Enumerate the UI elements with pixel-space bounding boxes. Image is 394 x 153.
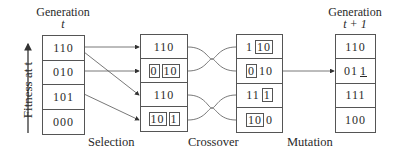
gene-segment: 10 [258,65,274,77]
selection-column: 110010110101 [140,34,188,132]
crossover-label: Crossover [188,135,239,150]
chromosome-row: 111 [237,84,282,108]
swapped-gene-segment: 10 [162,64,180,78]
gene-segment: 110 [153,89,176,101]
gene-segment: 110 [153,41,176,53]
chromosome-row: 010 [237,59,282,83]
chromosome-row: 010 [43,61,84,86]
gene-segment: 101 [52,91,75,103]
chromosome-row: 101 [141,107,187,131]
swapped-gene-segment: 10 [149,112,167,126]
chromosome-row: 000 [43,110,84,135]
selection-label: Selection [88,135,135,150]
chromosome-row: 110 [141,83,187,107]
gene-segment: 110 [52,42,75,54]
generation-t-header: Generation t [30,6,96,30]
gene-segment: 01 [343,65,359,77]
gene-segment: 010 [52,66,75,78]
chromosome-row: 110 [141,35,187,59]
crossover-column: 110010111100 [236,34,283,133]
swapped-gene-segment: 0 [149,64,160,78]
mutated-gene: 1 [359,65,368,77]
gene-segment: 111 [344,89,366,101]
chromosome-row: 111 [336,84,375,108]
chromosome-row: 011 [336,59,375,83]
generation-t-sub: t [30,18,96,30]
gene-segment: 100 [344,114,367,126]
gene-segment: 0 [265,114,274,126]
gene-segment: 1 [245,41,254,53]
chromosome-row: 100 [336,108,375,132]
gene-segment: 000 [52,116,75,128]
gene-segment: 11 [245,89,261,101]
generation-t1-header: Generation t + 1 [322,6,388,30]
swapped-gene-segment: 10 [246,113,264,127]
swapped-gene-segment: 1 [169,112,180,126]
chromosome-row: 010 [141,59,187,83]
generation-t1-sub: t + 1 [322,18,388,30]
chromosome-row: 100 [237,108,282,132]
chromosome-row: 101 [43,85,84,110]
swapped-gene-segment: 0 [246,64,257,78]
chromosome-row: 110 [336,35,375,59]
fitness-axis-label: Fitness at t [20,50,36,130]
mutation-label: Mutation [287,135,333,150]
generation-t-column: 110010101000 [42,35,85,135]
gene-segment: 110 [344,41,367,53]
swapped-gene-segment: 10 [255,40,273,54]
swapped-gene-segment: 1 [262,88,273,102]
generation-t1-column: 110011111100 [335,34,376,133]
chromosome-row: 110 [237,35,282,59]
chromosome-row: 110 [43,36,84,61]
